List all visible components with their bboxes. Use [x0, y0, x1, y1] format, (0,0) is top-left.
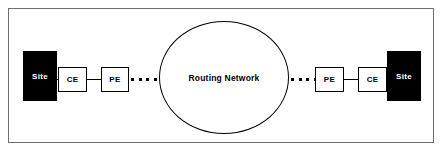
node-pe-left-label: PE	[109, 75, 120, 84]
network-diagram: Site CE PE Routing Network PE	[0, 0, 443, 151]
link-dot	[299, 78, 302, 81]
node-pe-right-label: PE	[324, 75, 335, 84]
node-site-left[interactable]: Site	[23, 51, 57, 101]
routing-network-label: Routing Network	[189, 73, 260, 83]
link-dot	[154, 78, 157, 81]
node-pe-right[interactable]: PE	[315, 67, 344, 92]
node-ce-right[interactable]: CE	[358, 67, 387, 92]
diagram-frame: Site CE PE Routing Network PE	[8, 8, 434, 143]
node-site-left-label: Site	[32, 72, 48, 81]
link-ce-left-pe-left	[87, 79, 101, 80]
node-pe-left[interactable]: PE	[101, 67, 129, 92]
node-site-right[interactable]: Site	[387, 51, 421, 101]
node-site-right-label: Site	[396, 72, 412, 81]
node-ce-left-label: CE	[67, 75, 79, 84]
link-pe-left-cloud	[131, 78, 157, 81]
link-dot	[139, 78, 142, 81]
link-dot	[131, 78, 134, 81]
node-ce-right-label: CE	[367, 75, 379, 84]
link-cloud-pe-right	[291, 78, 317, 81]
routing-network-cloud[interactable]: Routing Network	[159, 21, 289, 134]
link-pe-right-ce-right	[344, 79, 358, 80]
node-ce-left[interactable]: CE	[58, 67, 87, 92]
link-dot	[146, 78, 149, 81]
link-dot	[306, 78, 309, 81]
link-dot	[291, 78, 294, 81]
